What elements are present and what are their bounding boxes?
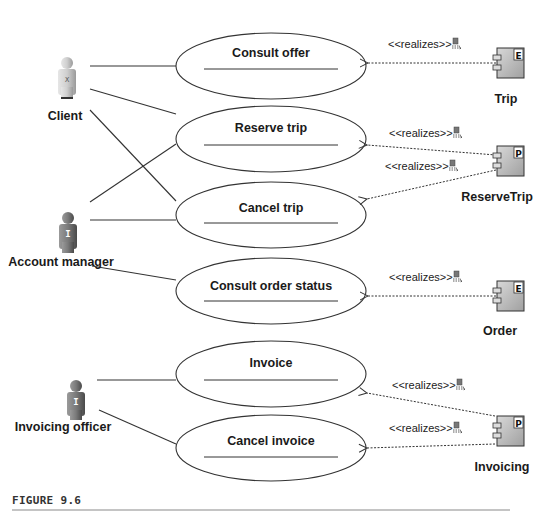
assoc-client-reserve-trip [90,89,176,114]
component-order[interactable]: E [493,281,524,311]
component-reservetrip[interactable]: P [493,146,524,176]
actor-label-account-manager: Account manager [8,255,114,269]
actor-label-client: Client [48,109,84,123]
component-badge: E [515,51,521,61]
realize-reservetrip-reserve-trip [367,145,496,155]
actor-badge: I [73,397,78,407]
component-badge: E [515,284,521,294]
realizes-label: <<realizes>> [389,422,453,434]
actor-label-invoicing-officer: Invoicing officer [15,420,112,434]
realize-invoicing-invoice [367,393,495,416]
realization-icon [453,127,462,139]
component-badge: P [515,149,522,159]
assoc-client-cancel-trip [90,110,176,201]
use-case-cancel-invoice[interactable]: Cancel invoice [176,415,366,481]
actor-client[interactable]: X [58,57,76,99]
realization-icon [456,379,465,391]
stereotype-labels: <<realizes>> <<realizes>> <<realizes>> <… [385,38,465,434]
realizes-label: <<realizes>> [392,379,456,391]
use-case-label: Consult order status [210,279,332,293]
use-case-consult-order-status[interactable]: Consult order status [176,258,366,324]
use-case-reserve-trip[interactable]: Reserve trip [176,106,366,172]
use-case-label: Reserve trip [235,121,308,135]
actor-invoicing-officer[interactable]: I [67,380,85,420]
use-case-label: Cancel trip [239,201,304,215]
realization-icon [452,38,461,50]
actor-account-manager[interactable]: I [59,212,77,253]
realizes-label: <<realizes>> [389,271,453,283]
component-invoicing[interactable]: P [493,416,524,446]
realize-invoicing-cancel-invoice [367,444,495,448]
component-trip[interactable]: E [493,48,524,78]
realizes-label: <<realizes>> [389,127,453,139]
component-label-invoicing: Invoicing [475,460,530,474]
use-case-consult-offer[interactable]: Consult offer [176,33,366,99]
component-badge: P [515,419,522,429]
component-label-order: Order [483,324,517,338]
use-case-invoice[interactable]: Invoice [176,341,366,407]
realization-icon [453,422,462,434]
realization-icon [453,271,462,283]
realization-icon [449,160,458,172]
use-case-cancel-trip[interactable]: Cancel trip [176,182,366,248]
actor-badge: I [65,229,70,239]
realizes-label: <<realizes>> [388,38,452,50]
component-label-trip: Trip [495,92,518,106]
use-case-label: Consult offer [232,46,310,60]
use-case-diagram: Consult offer Reserve trip Cancel trip C… [0,0,549,517]
assoc-account-manager-reserve-trip [90,144,176,202]
use-case-label: Invoice [249,356,292,370]
component-label-reservetrip: ReserveTrip [461,190,533,204]
figure-caption: FIGURE 9.6 [12,494,81,507]
use-case-label: Cancel invoice [227,434,315,448]
realizes-label: <<realizes>> [385,160,449,172]
